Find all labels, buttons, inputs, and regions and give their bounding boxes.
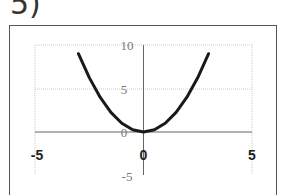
chart-plot: 10 5 0 -5 -5 0 5 [0, 0, 285, 195]
y-tick-5: 5 [121, 82, 128, 97]
x-tick-5: 5 [248, 147, 256, 163]
y-tick-neg5: -5 [122, 169, 133, 184]
y-tick-10: 10 [121, 38, 134, 53]
x-tick-neg5: -5 [31, 147, 44, 163]
x-tick-0: 0 [140, 147, 148, 163]
